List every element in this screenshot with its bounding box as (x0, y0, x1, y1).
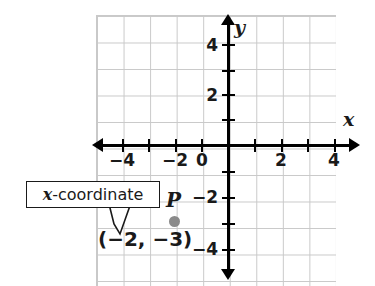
y-tick-4 (222, 44, 235, 46)
y-tick-neg3 (222, 223, 235, 225)
x-axis-arrow-right-icon (349, 138, 360, 152)
coordinate-plane-figure: −4 −2 0 2 4 4 2 −2 −4 y x P (−2, −3) x-c… (0, 0, 375, 286)
x-tick-label-neg4: −4 (106, 152, 138, 169)
x-tick-1 (254, 139, 256, 152)
x-axis-arrow-left-icon (92, 138, 103, 152)
y-axis-line (227, 23, 230, 274)
x-axis-label: x (343, 110, 354, 129)
y-tick-label-2: 2 (190, 87, 218, 104)
x-tick-neg3 (148, 139, 150, 152)
callout-box-x-coordinate: x-coordinate (26, 181, 160, 208)
y-tick-neg4 (222, 249, 235, 251)
plotted-point-p (169, 216, 180, 227)
y-tick-3 (222, 70, 235, 72)
x-tick-3 (307, 139, 309, 152)
y-tick-neg2 (222, 197, 235, 199)
y-tick-1 (222, 119, 235, 121)
plotted-point-p-label: P (166, 190, 181, 210)
x-tick-label-2: 2 (272, 152, 290, 169)
y-tick-label-4: 4 (190, 37, 218, 54)
x-tick-label-4: 4 (325, 152, 343, 169)
callout-italic-x: x (43, 185, 53, 204)
x-tick-label-zero: 0 (193, 152, 211, 169)
y-tick-label-neg2: −2 (183, 189, 218, 206)
callout-box-label: x-coordinate (43, 187, 144, 203)
y-axis-arrow-up-icon (221, 14, 235, 25)
callout-rest-text: -coordinate (52, 185, 143, 204)
y-tick-2 (222, 94, 235, 96)
y-axis-arrow-down-icon (221, 269, 235, 280)
x-tick-label-neg2: −2 (159, 152, 191, 169)
y-tick-neg1 (222, 171, 235, 173)
y-axis-label: y (234, 18, 245, 37)
